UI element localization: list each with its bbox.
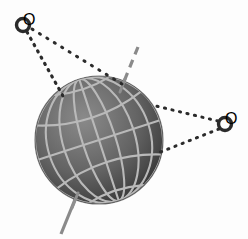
observer-label-right: O [225, 110, 237, 127]
observer-label-upper-left: O [23, 11, 35, 28]
sphere-tangent-diagram: O O [0, 0, 248, 239]
figure-canvas: Tilted sphere with graticule and two ext… [0, 0, 248, 239]
